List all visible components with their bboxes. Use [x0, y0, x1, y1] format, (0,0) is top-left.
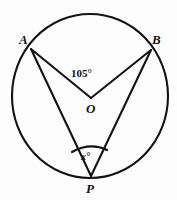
inscribed-angle-label: x°	[81, 152, 90, 162]
segment-b-o	[91, 50, 151, 98]
vertex-label-a: A	[19, 33, 28, 46]
geometry-canvas	[0, 0, 177, 200]
vertex-label-p: P	[86, 182, 94, 195]
vertex-label-b: B	[152, 33, 161, 46]
vertex-label-o: O	[86, 102, 95, 115]
geometry-figure: A B O P 105° x°	[0, 0, 177, 200]
central-angle-label: 105°	[71, 68, 92, 79]
